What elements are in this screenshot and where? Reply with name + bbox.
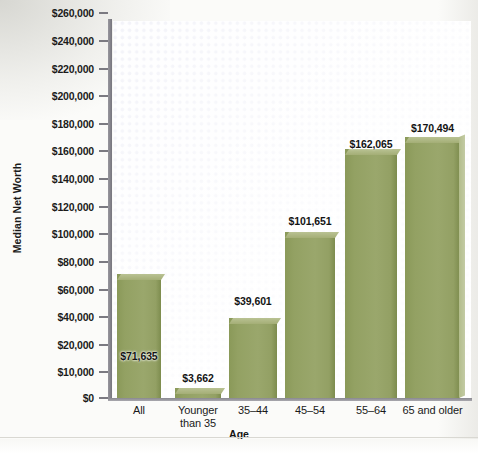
y-tick-label: $200,000: [0, 91, 108, 101]
bar-face: [405, 137, 460, 398]
y-tick-label-text: $10,000: [28, 367, 94, 377]
bar-top-face: [229, 318, 281, 324]
y-tick-label-text: $180,000: [28, 119, 94, 129]
y-tick-label: $220,000: [0, 64, 108, 74]
y-tick-label-text: $200,000: [28, 91, 94, 101]
bar-value-label: $39,601: [223, 295, 283, 307]
bar-top-face: [285, 232, 339, 238]
y-tick-label: $0: [0, 393, 108, 403]
y-tick-label: $180,000: [0, 119, 108, 129]
bar-top-face: [175, 388, 225, 394]
y-tick-label: $260,000: [0, 8, 108, 18]
y-tick-label-text: $220,000: [28, 64, 94, 74]
x-tick-label-line: 65 and older: [393, 404, 473, 417]
y-tick-label-text: $0: [28, 393, 94, 403]
y-tick-label-text: $100,000: [28, 229, 94, 239]
page-edge-rule: [0, 437, 478, 438]
y-tick-label: $60,000: [0, 285, 108, 295]
bar-value-label: $162,065: [341, 138, 401, 150]
bar-value-label: $101,651: [280, 215, 340, 227]
bar-face: [229, 318, 277, 398]
bar-value-label: $170,494: [403, 122, 463, 134]
y-tick-label-text: $20,000: [28, 340, 94, 350]
bar-face: [117, 274, 161, 398]
y-axis-line: [108, 19, 112, 400]
bar-top-face: [405, 137, 464, 143]
y-tick-label-text: $120,000: [28, 202, 94, 212]
y-tick-label-text: $260,000: [28, 8, 94, 18]
bar: [175, 388, 221, 398]
bar-face: [285, 232, 335, 398]
y-tick-label-text: $40,000: [28, 312, 94, 322]
bar-top-face: [117, 274, 165, 280]
y-tick-label: $10,000: [0, 367, 108, 377]
bar: [117, 274, 161, 398]
y-tick-label: $40,000: [0, 312, 108, 322]
y-tick-label-text: $160,000: [28, 146, 94, 156]
y-tick-label: $20,000: [0, 340, 108, 350]
y-tick-label: $240,000: [0, 36, 108, 46]
bar-value-label: $71,635: [109, 350, 169, 362]
y-tick-label-text: $240,000: [28, 36, 94, 46]
y-tick-label-text: $140,000: [28, 174, 94, 184]
bar-value-label: $3,662: [168, 372, 228, 384]
bar: [345, 149, 397, 398]
x-axis-line: [108, 398, 472, 401]
y-tick-label-text: $60,000: [28, 285, 94, 295]
bar-side-face: [459, 135, 465, 398]
bar-chart: $0$10,000$20,000$40,000$60,000$80,000$10…: [0, 0, 478, 454]
y-tick-label-text: $80,000: [28, 257, 94, 267]
bar: [229, 318, 277, 398]
bar: [405, 137, 460, 398]
bar-face: [345, 149, 397, 398]
x-tick-label: 65 and older: [393, 404, 473, 417]
page-edge-fade: [0, 439, 478, 454]
bar: [285, 232, 335, 398]
